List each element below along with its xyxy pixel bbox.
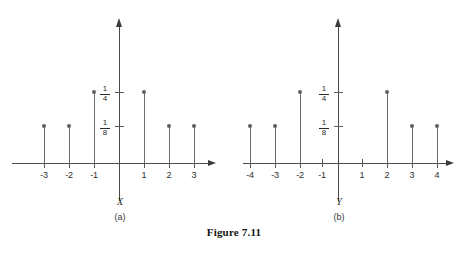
- y-tick-label-quarter-b: 1 4: [316, 85, 332, 103]
- x-tick: [44, 163, 45, 168]
- x-tick-label: -2: [59, 170, 79, 180]
- stem-dot: [167, 124, 171, 128]
- x-tick: [169, 163, 170, 168]
- stem-dot: [273, 124, 277, 128]
- x-tick: [194, 163, 195, 168]
- panel-tag-b: (b): [324, 212, 354, 222]
- x-tick: [275, 163, 276, 168]
- stem-line: [412, 126, 413, 163]
- stem-line: [300, 92, 301, 163]
- stem-line: [194, 126, 195, 163]
- x-tick-label: -1: [84, 170, 104, 180]
- x-tick-label: -4: [240, 170, 260, 180]
- stem-dot: [42, 124, 46, 128]
- y-tick-eighth-b: [334, 126, 343, 127]
- fraction-numerator: 1: [97, 119, 113, 128]
- x-tick: [322, 159, 323, 167]
- x-tick: [250, 163, 251, 168]
- x-tick: [362, 159, 363, 167]
- panel-tag-a: (a): [105, 212, 135, 222]
- y-tick-label-eighth-a: 1 8: [97, 119, 113, 137]
- fraction-denominator: 8: [316, 129, 332, 138]
- figure-caption: Figure 7.11: [0, 226, 468, 238]
- y-axis-line-b: [338, 26, 339, 201]
- x-axis-line-b: [243, 163, 448, 164]
- x-tick-label: 3: [184, 170, 204, 180]
- x-axis-arrow-a: [208, 160, 216, 166]
- x-tick-label: -1: [312, 170, 332, 180]
- x-tick-label: 2: [159, 170, 179, 180]
- stem-line: [387, 92, 388, 163]
- stem-dot: [248, 124, 252, 128]
- y-tick-label-eighth-b: 1 8: [316, 119, 332, 137]
- fraction-numerator: 1: [316, 85, 332, 94]
- stem-dot: [142, 90, 146, 94]
- stem-line: [69, 126, 70, 163]
- x-tick-label: 1: [134, 170, 154, 180]
- stem-line: [94, 92, 95, 163]
- x-tick: [387, 163, 388, 168]
- stem-line: [169, 126, 170, 163]
- x-tick-label: 3: [402, 170, 422, 180]
- x-tick: [412, 163, 413, 168]
- stem-dot: [192, 124, 196, 128]
- stem-dot: [410, 124, 414, 128]
- x-axis-line-a: [12, 163, 210, 164]
- x-tick: [94, 163, 95, 168]
- x-tick-label: -3: [265, 170, 285, 180]
- y-tick-quarter-b: [334, 92, 343, 93]
- stem-line: [144, 92, 145, 163]
- x-axis-arrow-b: [446, 160, 454, 166]
- figure-container: 1 4 1 8 -3 -2 -1 1 2: [0, 0, 468, 254]
- x-tick: [300, 163, 301, 168]
- stem-plot-panel-a: 1 4 1 8 -3 -2 -1 1 2: [0, 0, 234, 220]
- x-tick-label: 1: [352, 170, 372, 180]
- fraction-numerator: 1: [316, 119, 332, 128]
- stem-dot: [435, 124, 439, 128]
- x-tick-label: -3: [34, 170, 54, 180]
- stem-dot: [92, 90, 96, 94]
- x-tick: [69, 163, 70, 168]
- x-tick-label: -2: [290, 170, 310, 180]
- stem-dot: [385, 90, 389, 94]
- stem-dot: [298, 90, 302, 94]
- stem-line: [250, 126, 251, 163]
- y-axis-arrow-a: [116, 18, 122, 27]
- y-tick-label-quarter-a: 1 4: [97, 85, 113, 103]
- x-tick-label: 4: [427, 170, 447, 180]
- y-axis-line-a: [119, 26, 120, 201]
- stem-dot: [67, 124, 71, 128]
- stem-line: [44, 126, 45, 163]
- y-tick-eighth-a: [115, 126, 124, 127]
- fraction-denominator: 8: [97, 129, 113, 138]
- axis-variable-label-b: Y: [329, 196, 349, 207]
- x-tick: [437, 163, 438, 168]
- stem-plot-panel-b: 1 4 1 8 -4 -3 -2 -1 1 2: [234, 0, 468, 220]
- x-tick: [144, 163, 145, 168]
- stem-line: [275, 126, 276, 163]
- fraction-denominator: 4: [97, 95, 113, 104]
- y-axis-arrow-b: [335, 18, 341, 27]
- stem-line: [437, 126, 438, 163]
- fraction-numerator: 1: [97, 85, 113, 94]
- x-tick-label: 2: [377, 170, 397, 180]
- fraction-denominator: 4: [316, 95, 332, 104]
- y-tick-quarter-a: [115, 92, 124, 93]
- axis-variable-label-a: X: [110, 196, 130, 207]
